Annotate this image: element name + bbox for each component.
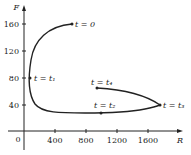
point-t3	[159, 104, 162, 107]
x-axis-arrow-icon	[177, 129, 183, 133]
x-tick-label: 400	[47, 136, 62, 145]
y-tick-label: 80	[9, 74, 19, 83]
annotation-t4: t = t₄	[91, 78, 112, 87]
y-tick-label: 40	[9, 101, 19, 110]
annotation-t3: t = t₃	[163, 101, 184, 110]
x-axis-label: R	[176, 136, 183, 145]
y-tick-label: 160	[4, 20, 19, 29]
origin-label: 0	[15, 135, 20, 144]
x-tick-label: 1200	[107, 136, 127, 145]
y-axis-arrow-icon	[22, 5, 26, 11]
annotation-t1: t = t₁	[34, 74, 55, 83]
point-t2	[100, 112, 103, 115]
annotation-t0: t = 0	[75, 20, 95, 29]
y-tick-label: 120	[4, 47, 19, 56]
trajectory-curve	[29, 24, 160, 113]
x-tick-label: 1600	[138, 136, 158, 145]
x-tick-label: 800	[78, 136, 93, 145]
phase-plot: 400 800 1200 1600 0 R 40 80 120 160 F t …	[0, 0, 191, 155]
annotation-t2: t = t₂	[94, 101, 115, 110]
point-t0	[71, 23, 74, 26]
point-t1	[29, 77, 32, 80]
y-axis-label: F	[12, 3, 19, 12]
